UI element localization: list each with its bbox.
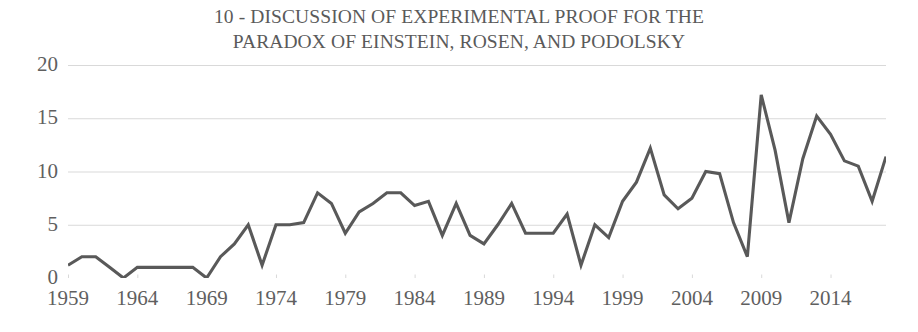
data-series-line (68, 95, 886, 278)
x-tick-label-1964: 1964 (97, 286, 177, 310)
y-tick-label-5: 5 (6, 214, 58, 235)
x-tick-label-1979: 1979 (305, 286, 385, 310)
y-axis: 05101520 (0, 0, 58, 332)
x-tick-label-1984: 1984 (375, 286, 455, 310)
x-tick-label-1994: 1994 (513, 286, 593, 310)
chart-container: 10 - DISCUSSION OF EXPERIMENTAL PROOF FO… (0, 0, 918, 332)
x-tick-label-2014: 2014 (791, 286, 871, 310)
y-tick-label-15: 15 (6, 107, 58, 128)
x-tick-label-2009: 2009 (721, 286, 801, 310)
y-tick-label-20: 20 (6, 54, 58, 75)
x-tick-label-1974: 1974 (236, 286, 316, 310)
x-axis: 1959196419691974197919841989199419992004… (0, 286, 918, 320)
y-tick-label-0: 0 (6, 267, 58, 288)
line-chart-svg (68, 65, 886, 278)
x-axis-tick-marks (69, 275, 832, 279)
y-tick-label-10: 10 (6, 161, 58, 182)
x-tick-label-1999: 1999 (583, 286, 663, 310)
x-tick-label-1969: 1969 (167, 286, 247, 310)
x-tick-label-1959: 1959 (28, 286, 108, 310)
plot-area (68, 65, 886, 278)
chart-title: 10 - DISCUSSION OF EXPERIMENTAL PROOF FO… (0, 4, 918, 54)
x-tick-label-1989: 1989 (444, 286, 524, 310)
x-tick-label-2004: 2004 (652, 286, 732, 310)
